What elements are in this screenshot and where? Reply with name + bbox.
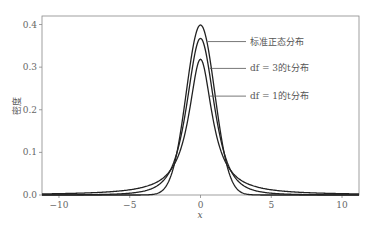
density-curves bbox=[42, 25, 359, 195]
density-chart: 0.00.10.20.30.4 −10−50510 标准正态分布df = 3的t… bbox=[0, 0, 372, 233]
y-tick-label: 0.4 bbox=[23, 20, 38, 30]
curve-annotations: 标准正态分布df = 3的t分布df = 1的t分布 bbox=[208, 36, 309, 102]
x-axis-title: x bbox=[197, 210, 202, 220]
y-tick-label: 0.3 bbox=[23, 62, 38, 72]
annotation-normal: 标准正态分布 bbox=[250, 36, 304, 47]
x-tick-label: 10 bbox=[336, 200, 348, 210]
x-tick-label: −10 bbox=[49, 200, 68, 210]
x-axis-ticks: −10−50510 bbox=[49, 195, 348, 210]
y-tick-label: 0.0 bbox=[23, 190, 38, 200]
x-tick-label: 5 bbox=[268, 200, 274, 210]
y-tick-label: 0.2 bbox=[23, 105, 37, 115]
curve-normal bbox=[42, 25, 359, 195]
annotation-t1: df = 1的t分布 bbox=[250, 90, 309, 101]
y-axis-title: 密度 bbox=[11, 97, 22, 115]
y-axis-ticks: 0.00.10.20.30.4 bbox=[23, 20, 42, 200]
x-tick-label: −5 bbox=[123, 200, 137, 210]
curve-t1 bbox=[42, 59, 359, 194]
annotation-t3: df = 3的t分布 bbox=[250, 62, 309, 73]
y-tick-label: 0.1 bbox=[23, 147, 37, 157]
plot-frame bbox=[42, 16, 359, 195]
curve-t3 bbox=[42, 38, 359, 195]
x-tick-label: 0 bbox=[198, 200, 204, 210]
